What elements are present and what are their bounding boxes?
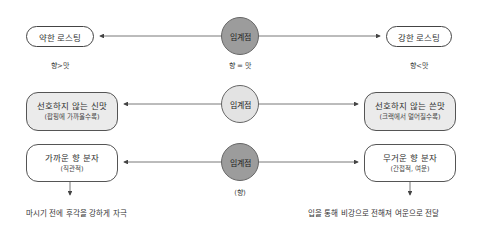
light-aroma-molecule-title: 가까운 향 분자 [45,152,98,164]
unpreferred-bitterness-title: 선호하지 않는 쓴맛 [375,100,444,112]
unpreferred-bitterness-subtitle: (크랙에서 멀어질수록) [379,112,440,123]
light-aroma-note: 마시기 전에 후각을 강하게 자극 [26,207,127,218]
unpreferred-sourness-subtitle: (팝핑에 가까울수록) [44,112,99,123]
strong-roasting-node: 강한 로스팅 [386,26,452,47]
critical-point-caption-3: (향) [210,187,270,197]
unpreferred-bitterness-node: 선호하지 않는 쓴맛 (크랙에서 멀어질수록) [364,92,456,131]
light-aroma-molecule-subtitle: (직관적) [60,164,83,175]
critical-point-label: 임계점 [230,157,251,168]
critical-point-label: 임계점 [230,31,251,42]
unpreferred-sourness-title: 선호하지 않는 신맛 [37,100,106,112]
unpreferred-sourness-node: 선호하지 않는 신맛 (팝핑에 가까울수록) [26,92,118,131]
heavy-aroma-note: 입을 통해 비강으로 전해져 여운으로 전달 [308,207,439,218]
heavy-aroma-molecule-title: 무거운 향 분자 [383,152,436,164]
weak-roasting-node: 약한 로스팅 [26,26,94,47]
strong-roasting-caption: 향<맛 [386,60,452,70]
heavy-aroma-molecule-node: 무거운 향 분자 (간접적, 여운) [364,144,456,182]
heavy-aroma-molecule-subtitle: (간접적, 여운) [390,164,429,175]
critical-point-label: 임계점 [230,99,251,110]
critical-point-node-3: 임계점 [221,143,259,181]
critical-point-node-2: 임계점 [221,85,259,123]
critical-point-caption-1: 향 = 맛 [210,60,270,70]
strong-roasting-label: 강한 로스팅 [398,31,441,43]
weak-roasting-caption: 향>맛 [26,60,94,70]
light-aroma-molecule-node: 가까운 향 분자 (직관적) [26,144,118,182]
critical-point-node-1: 임계점 [221,17,259,55]
weak-roasting-label: 약한 로스팅 [39,31,82,43]
